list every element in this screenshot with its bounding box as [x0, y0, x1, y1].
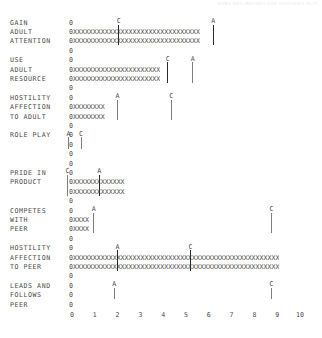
x-axis-tick: 1	[93, 310, 97, 320]
marker-tick-a	[99, 175, 100, 196]
zero-spacer-char: 0	[69, 160, 73, 169]
zero-spacer-char: 0	[69, 301, 73, 310]
bar-row: 0XXXXXXXXXXXXXXXXXXXXXXXXXXXXXXXXXXXXXXX…	[69, 254, 279, 263]
zero-spacer-char: 0	[69, 197, 73, 206]
x-axis-tick: 6	[207, 310, 211, 320]
zero-baseline-char: 0	[69, 56, 73, 65]
zero-baseline-char: 0	[69, 94, 73, 103]
x-axis-tick: 0	[70, 310, 74, 320]
marker-tick-a	[114, 288, 115, 299]
x-axis-tick: 2	[116, 310, 120, 320]
marker-tick-c	[81, 137, 82, 148]
x-axis-tick: 8	[252, 310, 256, 320]
plot-area: 0CA0XXXXXXXXXXXXXXXXXXXXXXXXXXXXXXXX0XXX…	[0, 0, 322, 338]
zero-baseline-char: 0	[69, 207, 73, 216]
marker-tick-c	[67, 175, 68, 196]
bar-row: 0XXXXXXXXXXXXX	[69, 188, 125, 197]
marker-tick-c	[271, 213, 272, 234]
zero-spacer-char: 0	[69, 235, 73, 244]
chart-root: WEBS AND MOTORS FOR TEACHERS (R,P) GAINA…	[0, 0, 322, 338]
bar-row: 0XXXXXXXXXXXXXXXXXXXXXX	[69, 66, 160, 75]
marker-tick-c	[118, 25, 119, 46]
bar-row: 0XXXXXXXX	[69, 113, 105, 122]
x-axis-tick: 9	[275, 310, 279, 320]
zero-spacer-char: 0	[69, 47, 73, 56]
bar-row: 0XXXX	[69, 216, 89, 225]
zero-spacer-char: 0	[69, 150, 73, 159]
bar-row: 0XXXXXXXXXXXXXXXXXXXXXX	[69, 75, 160, 84]
zero-baseline-char: 0	[69, 244, 73, 253]
marker-tick-a	[93, 213, 94, 234]
x-axis-tick: 3	[138, 310, 142, 320]
bar-row: 0XXXXXXXXXXXXXXXXXXXXXXXXXXXXXXXXXXXXXXX…	[69, 263, 279, 272]
bar-row: 0XXXXXXXXXXXXX	[69, 178, 125, 187]
zero-baseline-char: 0	[69, 19, 73, 28]
bar-row: 0XXXX	[69, 225, 89, 234]
x-axis-tick: 4	[161, 310, 165, 320]
x-axis-tick: 7	[230, 310, 234, 320]
zero-spacer-char: 0	[69, 272, 73, 281]
marker-tick-a	[117, 250, 118, 271]
marker-tick-c	[190, 250, 191, 271]
x-axis-tick: 10	[296, 310, 304, 320]
bar-row: 0XXXXXXXX	[69, 103, 105, 112]
bar-row: 0XXXXXXXXXXXXXXXXXXXXXXXXXXXXXXXX	[69, 28, 200, 37]
bar-row: 0XXXXXXXXXXXXXXXXXXXXXXXXXXXXXXXX	[69, 37, 200, 46]
zero-baseline-char: 0	[69, 169, 73, 178]
zero-spacer-char: 0	[69, 84, 73, 93]
zero-spacer-char: 0	[69, 141, 73, 150]
zero-spacer-char: 0	[69, 291, 73, 300]
marker-tick-c	[271, 288, 272, 299]
marker-tick-c	[171, 100, 172, 121]
marker-tick-c	[167, 62, 168, 83]
marker-tick-a	[192, 62, 193, 83]
zero-baseline-char: 0	[69, 282, 73, 291]
marker-tick-a	[213, 25, 214, 46]
marker-tick-a	[117, 100, 118, 121]
x-axis-tick: 5	[184, 310, 188, 320]
